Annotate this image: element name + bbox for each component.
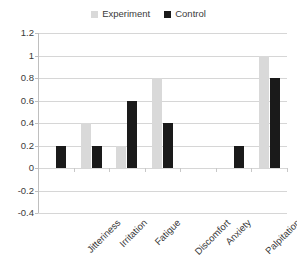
x-axis-labels: JitterinessIrritationFatigueDiscomfortAn… xyxy=(38,213,297,279)
y-axis-tick-label: 1.2 xyxy=(4,28,34,38)
legend-label-control: Control xyxy=(175,9,206,19)
bars-layer xyxy=(38,33,287,213)
y-axis-tick-label: 1 xyxy=(4,51,34,61)
legend-item-experiment[interactable]: Experiment xyxy=(91,9,150,19)
bar[interactable] xyxy=(56,146,66,169)
x-axis-category-label: Fatigue xyxy=(152,217,182,247)
bar[interactable] xyxy=(234,146,244,169)
y-axis-tick-label: 0.8 xyxy=(4,73,34,83)
y-axis-tick-label: 0.2 xyxy=(4,141,34,151)
y-axis-tick-label: 0.4 xyxy=(4,118,34,128)
chart-legend: Experiment Control xyxy=(0,6,297,22)
bar[interactable] xyxy=(92,146,102,169)
x-axis-tick xyxy=(287,168,288,172)
legend-swatch-control xyxy=(164,11,171,18)
x-axis-category-label: Irritation xyxy=(117,217,149,249)
bar[interactable] xyxy=(163,123,173,168)
legend-label-experiment: Experiment xyxy=(102,9,150,19)
y-axis-tick-label: -0.4 xyxy=(4,208,34,218)
bar[interactable] xyxy=(81,123,91,168)
y-axis-tick-label: -0.2 xyxy=(4,186,34,196)
bar[interactable] xyxy=(259,56,269,169)
bar[interactable] xyxy=(152,78,162,168)
y-axis-tick-label: 0 xyxy=(4,163,34,173)
plot-area xyxy=(38,33,287,213)
legend-swatch-experiment xyxy=(91,11,98,18)
x-axis-category-label: Jitteriness xyxy=(84,217,122,255)
bar-chart: Experiment Control 1.210.80.60.40.20-0.2… xyxy=(0,0,297,279)
bar[interactable] xyxy=(127,101,137,169)
legend-item-control[interactable]: Control xyxy=(164,9,206,19)
bar[interactable] xyxy=(270,78,280,168)
x-axis-category-label: Palpitation xyxy=(263,217,297,256)
bar[interactable] xyxy=(116,146,126,169)
y-axis-tick-label: 0.6 xyxy=(4,96,34,106)
